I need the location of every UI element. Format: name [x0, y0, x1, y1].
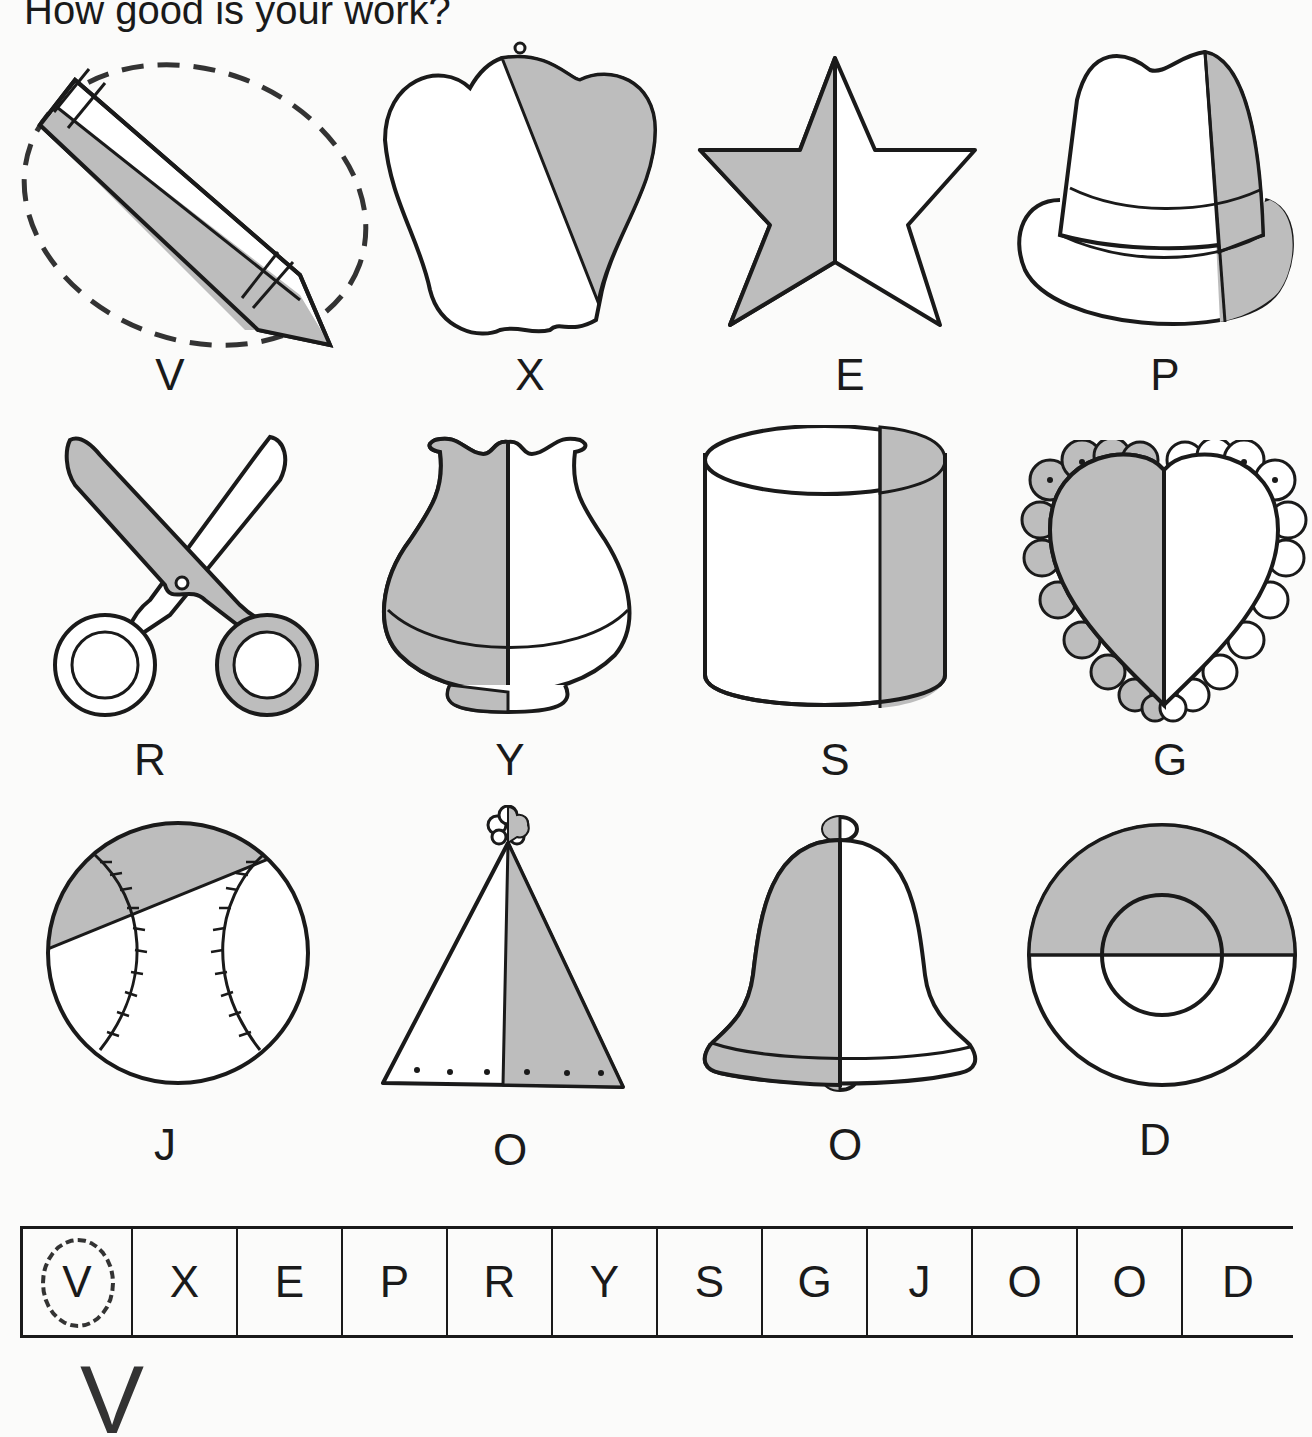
- picture-vase: Y: [380, 430, 700, 810]
- answer-box[interactable]: P: [343, 1229, 448, 1335]
- picture-letter: P: [1005, 350, 1312, 400]
- picture-party-hat: O: [375, 805, 695, 1185]
- picture-star: E: [690, 40, 1010, 420]
- picture-letter: G: [1010, 735, 1312, 785]
- baseball-icon: [45, 820, 315, 1090]
- pepper-icon: [370, 40, 670, 340]
- picture-letter: J: [5, 1120, 325, 1170]
- picture-baseball: J: [45, 820, 365, 1200]
- answer-box[interactable]: G: [763, 1229, 868, 1335]
- picture-letter: D: [995, 1115, 1312, 1165]
- picture-crayon: V: [10, 40, 330, 420]
- picture-letter: E: [690, 350, 1010, 400]
- picture-cylinder: S: [695, 425, 1015, 805]
- heart-icon: [1020, 440, 1310, 730]
- picture-letter: O: [350, 1125, 670, 1175]
- answer-box[interactable]: E: [238, 1229, 343, 1335]
- result-letters: V: [80, 1352, 144, 1437]
- ring-icon: [1025, 820, 1305, 1090]
- crayon-icon: [10, 40, 370, 360]
- picture-letter: O: [685, 1120, 1005, 1170]
- picture-heart: G: [1020, 440, 1312, 820]
- answer-box[interactable]: S: [658, 1229, 763, 1335]
- picture-scissors: R: [30, 425, 350, 805]
- answer-box[interactable]: Y: [553, 1229, 658, 1335]
- picture-pepper: X: [370, 40, 690, 420]
- answer-box[interactable]: O: [1078, 1229, 1183, 1335]
- answer-box[interactable]: O: [973, 1229, 1078, 1335]
- worksheet-title: How good is your work?: [24, 0, 451, 34]
- answer-box[interactable]: R: [448, 1229, 553, 1335]
- picture-letter: R: [0, 735, 310, 785]
- answer-box[interactable]: D: [1183, 1229, 1293, 1335]
- answer-strip: V X E P R Y S G J O O D: [20, 1226, 1293, 1338]
- picture-letter: S: [675, 735, 995, 785]
- picture-letter: X: [370, 350, 690, 400]
- cylinder-icon: [695, 425, 965, 725]
- picture-letter: Y: [350, 735, 670, 785]
- picture-hat: P: [1005, 40, 1312, 420]
- bell-icon: [690, 815, 990, 1095]
- vase-icon: [380, 430, 640, 720]
- party-hat-icon: [375, 805, 635, 1095]
- answer-box-circled[interactable]: V: [23, 1229, 133, 1335]
- picture-ring: D: [1025, 820, 1312, 1200]
- answer-box[interactable]: X: [133, 1229, 238, 1335]
- star-icon: [690, 40, 990, 340]
- picture-letter: V: [10, 350, 330, 400]
- hat-icon: [1005, 40, 1305, 340]
- answer-box[interactable]: J: [868, 1229, 973, 1335]
- scissors-icon: [30, 425, 330, 725]
- picture-bell: O: [690, 815, 1010, 1195]
